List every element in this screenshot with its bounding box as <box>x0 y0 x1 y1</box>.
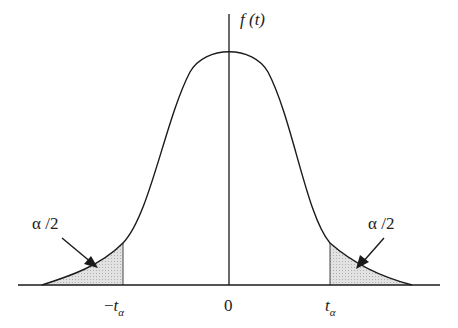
right-tail-area <box>330 243 412 285</box>
density-plot <box>0 0 458 328</box>
left-tail-area <box>42 243 123 285</box>
right-tail-label: α /2 <box>368 214 394 234</box>
left-tail-label: α /2 <box>32 214 58 234</box>
neg-t-alpha-tick: −tα <box>104 296 124 318</box>
t-alpha-tick: tα <box>325 296 336 318</box>
t-distribution-diagram: f (t) α /2 α /2 −tα 0 tα <box>0 0 458 328</box>
density-curve <box>42 52 412 285</box>
y-axis-label: f (t) <box>240 10 265 30</box>
zero-tick: 0 <box>224 296 233 316</box>
